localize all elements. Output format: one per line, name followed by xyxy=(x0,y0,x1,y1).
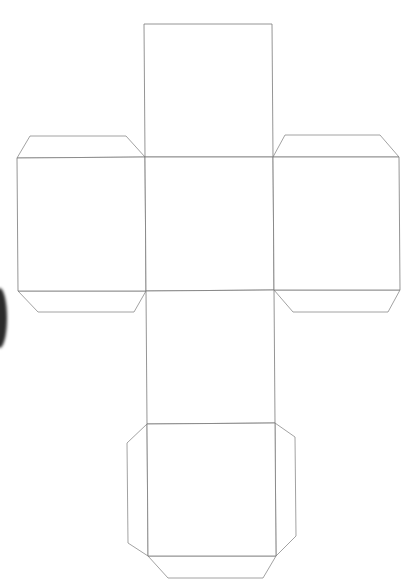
right-face xyxy=(273,157,400,290)
cube-faces xyxy=(17,24,400,556)
cube-net-diagram xyxy=(0,0,412,585)
left-face xyxy=(17,157,146,291)
bottom-face-left-tab xyxy=(127,424,148,556)
left-face-bottom-tab xyxy=(18,291,146,312)
right-face-bottom-tab xyxy=(274,290,400,312)
right-face-top-tab xyxy=(273,135,399,157)
left-face-top-tab xyxy=(17,136,145,158)
bottom-face-bottom-tab xyxy=(148,556,276,578)
lower-middle-face xyxy=(146,290,275,424)
center-face xyxy=(145,157,274,291)
bottom-face-right-tab xyxy=(275,423,296,556)
bottom-face xyxy=(147,423,276,556)
top-face xyxy=(144,24,273,157)
